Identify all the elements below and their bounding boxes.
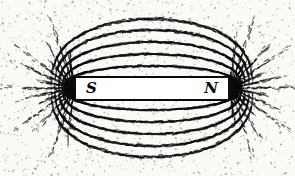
bar-magnet: S N [75,76,229,101]
magnetic-field-figure: S N [0,0,295,176]
north-pole-label: N [204,81,218,96]
south-pole-label: S [86,81,97,96]
